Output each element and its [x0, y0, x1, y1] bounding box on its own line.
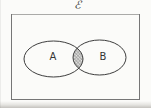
scan-shadow: [0, 101, 151, 108]
universal-set-symbol: ℰ: [70, 0, 85, 13]
set-a-label: A: [48, 51, 58, 62]
venn-diagram: [0, 0, 151, 108]
scan-edge-artifact: [0, 0, 1, 108]
scanned-venn-figure: ℰ A B: [0, 0, 151, 108]
set-b-label: B: [98, 51, 108, 62]
